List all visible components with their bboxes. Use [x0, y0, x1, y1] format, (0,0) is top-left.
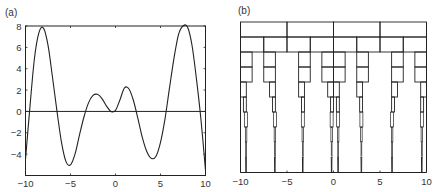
- x-tick-label: 0: [331, 176, 336, 187]
- x-tick-label: −5: [282, 176, 293, 187]
- y-tick-label: 2: [16, 85, 21, 96]
- panel-label-a: (a): [5, 7, 17, 18]
- subdivision-box: [334, 52, 346, 67]
- subdivision-box: [322, 67, 334, 82]
- subdivision-box: [264, 52, 276, 67]
- function-curve: [26, 25, 206, 170]
- subdivision-box: [357, 82, 363, 97]
- x-tick-label: 0: [113, 178, 118, 189]
- subdivision-box-fine: [301, 112, 304, 127]
- subdivision-box: [241, 52, 253, 67]
- subdivision-box: [415, 67, 427, 82]
- subdivision-box-fine: [246, 142, 247, 157]
- subdivision-box: [421, 97, 424, 112]
- subdivision-box: [392, 82, 398, 97]
- subdivision-box-fine: [361, 142, 362, 157]
- subdivision-box: [334, 67, 346, 82]
- x-tick-label: −10: [232, 176, 248, 187]
- subdivision-box-fine: [302, 142, 303, 157]
- subdivision-box: [392, 52, 404, 67]
- subdivision-box-fine: [337, 127, 338, 142]
- subdivision-box: [357, 37, 380, 52]
- y-tick-label: 4: [16, 63, 21, 74]
- subdivision-box: [380, 37, 403, 52]
- subdivision-box-fine: [337, 112, 340, 127]
- subdivision-box-fine: [245, 112, 248, 127]
- subdivision-box-fine: [392, 142, 393, 157]
- panel-label-b: (b): [238, 5, 250, 16]
- subdivision-box: [299, 52, 311, 67]
- subdivision-box: [334, 22, 381, 37]
- x-tick-label: 10: [200, 178, 211, 189]
- subdivision-box: [287, 37, 310, 52]
- subdivision-box-fine: [421, 127, 422, 142]
- x-tick-label: 10: [421, 176, 432, 187]
- subdivision-box: [392, 67, 404, 82]
- subdivision-box-fine: [245, 127, 246, 142]
- subdivision-box: [299, 67, 311, 82]
- subdivision-box: [241, 22, 288, 37]
- subdivision-box: [299, 82, 305, 97]
- subdivision-box: [243, 97, 246, 112]
- plot-b: (b)−10−50510: [232, 5, 431, 187]
- subdivision-box: [310, 37, 333, 52]
- y-tick-label: −4: [11, 149, 22, 160]
- subdivision-box-fine: [420, 112, 423, 127]
- subdivision-box-fine: [361, 127, 362, 142]
- subdivision-box: [264, 67, 276, 82]
- subdivision-box: [331, 97, 334, 112]
- y-tick-label: 6: [16, 42, 21, 53]
- subdivision-box-fine: [330, 112, 333, 127]
- plot-a: (a)−10−5051086420−2−4: [5, 7, 211, 189]
- y-tick-label: 8: [16, 21, 21, 32]
- subdivision-box: [392, 97, 395, 112]
- subdivision-box: [403, 37, 426, 52]
- figure: (a)−10−5051086420−2−4 (b)−10−50510: [0, 0, 442, 192]
- subdivision-box: [302, 97, 305, 112]
- subdivision-box-fine: [302, 127, 303, 142]
- subdivision-box-fine: [391, 112, 394, 127]
- subdivision-box-fine: [331, 127, 332, 142]
- x-tick-label: 5: [377, 176, 382, 187]
- y-tick-label: −2: [11, 127, 22, 138]
- subdivision-box-fine: [421, 142, 422, 157]
- subdivision-box: [322, 52, 334, 67]
- subdivision-box: [272, 97, 275, 112]
- x-tick-label: 5: [158, 178, 163, 189]
- subdivision-box: [241, 67, 253, 82]
- subdivision-box: [328, 82, 334, 97]
- subdivision-box: [334, 37, 357, 52]
- subdivision-box: [357, 52, 369, 67]
- subdivision-box-fine: [275, 142, 276, 157]
- subdivision-box-fine: [331, 142, 332, 157]
- subdivision-box: [334, 82, 340, 97]
- x-tick-label: −10: [17, 178, 33, 189]
- subdivision-box: [287, 22, 334, 37]
- subdivision-box: [421, 82, 427, 97]
- subdivision-box-fine: [338, 142, 339, 157]
- subdivision-box: [380, 22, 427, 37]
- subdivision-box: [241, 37, 264, 52]
- subdivision-box: [270, 82, 276, 97]
- subdivision-box-fine: [360, 112, 363, 127]
- subdivision-box-fine: [274, 127, 275, 142]
- y-tick-label: 0: [16, 106, 21, 117]
- subdivision-box: [357, 67, 369, 82]
- subdivision-box: [264, 37, 287, 52]
- axes-frame-a: [26, 26, 206, 176]
- subdivision-box-fine: [391, 127, 392, 142]
- subdivision-box: [336, 97, 339, 112]
- subdivision-box-fine: [273, 112, 276, 127]
- subdivision-box: [241, 82, 247, 97]
- subdivision-box: [360, 97, 363, 112]
- subdivision-box: [415, 52, 427, 67]
- x-tick-label: −5: [65, 178, 76, 189]
